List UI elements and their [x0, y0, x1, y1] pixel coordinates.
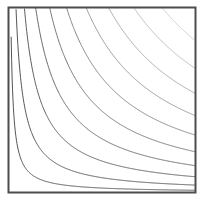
plot-background — [0, 0, 209, 202]
hyperbola-plot — [0, 0, 209, 202]
figure-root — [0, 0, 209, 202]
